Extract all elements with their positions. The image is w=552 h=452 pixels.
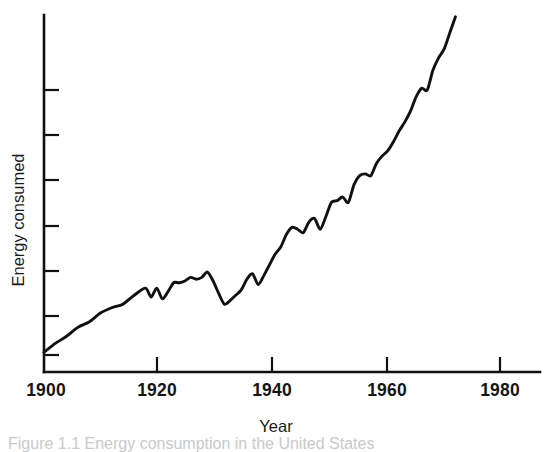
y-axis-ticks <box>44 90 59 355</box>
y-axis-title-wrapper: Energy consumed <box>4 120 32 320</box>
x-axis-label-1900: 1900 <box>26 382 66 400</box>
x-axis-label-1960: 1960 <box>367 382 407 400</box>
x-axis-title: Year <box>0 418 552 435</box>
x-axis-ticks <box>157 357 500 372</box>
x-axis-label-1920: 1920 <box>137 382 177 400</box>
x-axis-label-1940: 1940 <box>252 382 292 400</box>
y-axis-title: Energy consumed <box>10 154 27 287</box>
energy-consumed-line <box>44 17 455 353</box>
figure-caption: Figure 1.1 Energy consumption in the Uni… <box>8 436 548 452</box>
x-axis-label-1980: 1980 <box>480 382 520 400</box>
